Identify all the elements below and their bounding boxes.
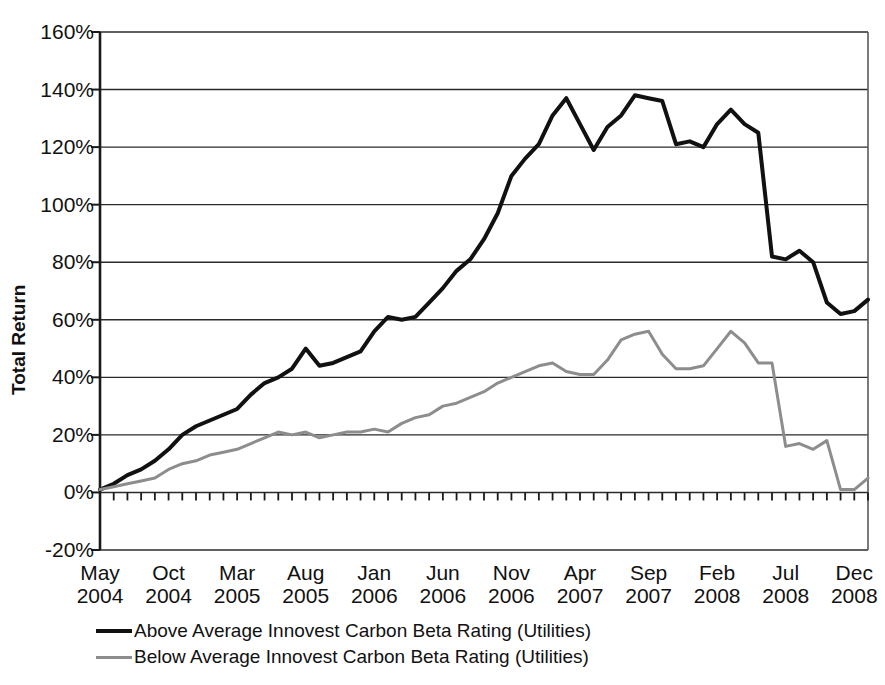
- legend-label: Above Average Innovest Carbon Beta Ratin…: [134, 620, 591, 642]
- legend-item[interactable]: Below Average Innovest Carbon Beta Ratin…: [96, 644, 736, 670]
- legend-line-swatch-icon: [96, 629, 132, 633]
- x-tick-year: 2006: [488, 585, 535, 608]
- x-tick-year: 2008: [831, 585, 878, 608]
- x-axis-tick-label: Sep2007: [625, 562, 672, 607]
- x-tick-year: 2006: [419, 585, 466, 608]
- x-tick-year: 2004: [77, 585, 124, 608]
- x-axis-tick-label: May2004: [77, 562, 124, 607]
- x-tick-month: Mar: [214, 562, 261, 585]
- x-tick-year: 2008: [694, 585, 741, 608]
- x-axis-tick-label: Jun2006: [419, 562, 466, 607]
- x-tick-month: Jul: [762, 562, 809, 585]
- legend-label: Below Average Innovest Carbon Beta Ratin…: [134, 646, 589, 668]
- x-tick-month: Oct: [145, 562, 192, 585]
- x-axis-tick-label: Oct2004: [145, 562, 192, 607]
- x-tick-month: Feb: [694, 562, 741, 585]
- x-tick-month: Jun: [419, 562, 466, 585]
- x-axis-tick-label: Jan2006: [351, 562, 398, 607]
- x-tick-year: 2007: [557, 585, 604, 608]
- x-tick-year: 2008: [762, 585, 809, 608]
- x-tick-month: Aug: [282, 562, 329, 585]
- x-tick-month: Sep: [625, 562, 672, 585]
- x-tick-month: May: [77, 562, 124, 585]
- x-axis-tick-label: Dec2008: [831, 562, 878, 607]
- x-axis-tick-label: Nov2006: [488, 562, 535, 607]
- x-tick-month: Dec: [831, 562, 878, 585]
- x-axis-tick-label: Jul2008: [762, 562, 809, 607]
- x-tick-year: 2004: [145, 585, 192, 608]
- x-axis-tick-label: Feb2008: [694, 562, 741, 607]
- x-axis-tick-label: Mar2005: [214, 562, 261, 607]
- x-axis-tick-labels: May2004Oct2004Mar2005Aug2005Jan2006Jun20…: [0, 0, 885, 685]
- x-tick-year: 2005: [214, 585, 261, 608]
- legend-line-swatch-icon: [96, 656, 132, 659]
- chart-figure: Total Return 160%140%120%100%80%60%40%20…: [0, 0, 885, 685]
- x-axis-tick-label: Apr2007: [557, 562, 604, 607]
- x-tick-month: Jan: [351, 562, 398, 585]
- chart-legend: Above Average Innovest Carbon Beta Ratin…: [96, 618, 736, 670]
- x-tick-month: Nov: [488, 562, 535, 585]
- x-axis-tick-label: Aug2005: [282, 562, 329, 607]
- x-tick-year: 2006: [351, 585, 398, 608]
- x-tick-year: 2005: [282, 585, 329, 608]
- legend-item[interactable]: Above Average Innovest Carbon Beta Ratin…: [96, 618, 736, 644]
- x-tick-month: Apr: [557, 562, 604, 585]
- x-tick-year: 2007: [625, 585, 672, 608]
